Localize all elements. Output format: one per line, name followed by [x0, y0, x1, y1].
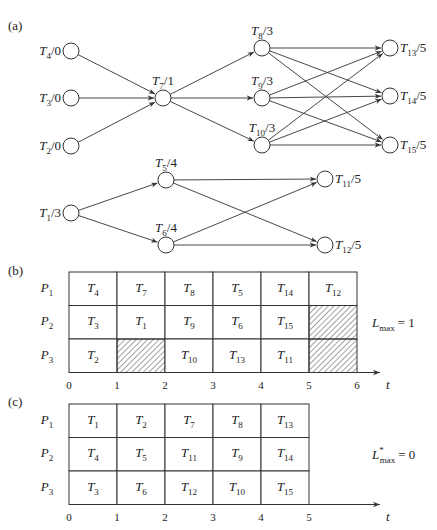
processor-label-P2: P2 [40, 445, 53, 463]
node-T6 [158, 237, 174, 253]
node-T10 [254, 137, 270, 153]
tick-label: 0 [66, 511, 72, 523]
node-label-T14: T14/5 [400, 88, 426, 106]
lmax-result: L*max= 0 [371, 445, 415, 465]
node-T2 [63, 138, 79, 154]
edge-T8-T14 [269, 51, 381, 93]
processor-label-P3: P3 [40, 479, 54, 497]
tick-label: 1 [114, 379, 120, 391]
edge-T7-T10 [170, 101, 254, 141]
node-label-T8: T8/3 [251, 23, 273, 41]
edge-T5-T11 [174, 179, 316, 180]
processor-label-P3: P3 [40, 347, 54, 365]
node-label-T6: T6/4 [155, 220, 177, 238]
edge-T2-T7 [78, 102, 155, 142]
node-T4 [63, 43, 79, 59]
node-label-T2: T2/0 [39, 138, 61, 156]
tick-label: 5 [306, 511, 312, 523]
node-label-T15: T15/5 [400, 137, 426, 155]
processor-label-P1: P1 [40, 280, 53, 298]
node-T7 [155, 90, 171, 106]
idle-slot [309, 339, 357, 373]
tick-label: 1 [114, 511, 120, 523]
axis-label-t: t [386, 509, 390, 524]
gantt-chart-schedule-c: T1T2T7T8T13P1T4T5T11T9T14P2T3T6T12T10T15… [40, 404, 416, 524]
node-label-T3: T3/0 [39, 90, 61, 108]
processor-label-P2: P2 [40, 313, 53, 331]
tick-label: 5 [306, 379, 312, 391]
edge-T7-T8 [170, 52, 254, 94]
tick-label: 3 [210, 511, 216, 523]
lmax-result: Lmax= 1 [371, 315, 415, 333]
tick-label: 2 [162, 379, 168, 391]
node-label-T10: T10/3 [249, 120, 275, 138]
node-T12 [317, 237, 333, 253]
precedence-graph-edges [78, 48, 383, 245]
precedence-graph-nodes: T4/0T3/0T2/0T7/1T8/3T9/3T10/3T13/5T14/5T… [39, 23, 426, 255]
node-T15 [382, 137, 398, 153]
node-label-T12: T12/5 [335, 237, 361, 255]
idle-slot [117, 339, 165, 373]
node-label-T7: T7/1 [152, 73, 174, 91]
node-label-T4: T4/0 [39, 43, 61, 61]
idle-slot [309, 306, 357, 340]
node-label-T9: T9/3 [251, 73, 273, 91]
axis-label-t: t [386, 377, 390, 392]
node-T5 [158, 172, 174, 188]
edge-T9-T13 [269, 51, 381, 95]
node-T13 [382, 40, 398, 56]
node-T1 [63, 205, 79, 221]
panel-label-c: (c) [8, 394, 22, 409]
node-T14 [382, 88, 398, 104]
processor-label-P1: P1 [40, 412, 53, 430]
tick-label: 4 [258, 379, 264, 391]
gantt-chart-schedule-b: T4T7T8T5T14T12P1T3T1T9T6T15P2T2T10T13T11… [40, 272, 415, 392]
node-T9 [254, 90, 270, 106]
edge-T1-T6 [79, 216, 158, 243]
edge-T4-T7 [78, 55, 155, 94]
node-label-T5: T5/4 [155, 155, 177, 173]
figure-canvas: (a) T4/0T3/0T2/0T7/1T8/3T9/3T10/3T13/5T1… [0, 0, 437, 530]
tick-label: 6 [354, 379, 360, 391]
node-T11 [317, 171, 333, 187]
panel-label-b: (b) [8, 263, 23, 278]
panel-label-a: (a) [8, 18, 22, 33]
tick-label: 0 [66, 379, 72, 391]
node-T3 [63, 90, 79, 106]
tick-label: 4 [258, 511, 264, 523]
node-T8 [254, 40, 270, 56]
node-label-T13: T13/5 [400, 40, 426, 58]
edge-T1-T5 [79, 183, 158, 210]
node-label-T1: T1/3 [39, 205, 61, 223]
tick-label: 3 [210, 379, 216, 391]
tick-label: 2 [162, 511, 168, 523]
node-label-T11: T11/5 [335, 171, 361, 189]
